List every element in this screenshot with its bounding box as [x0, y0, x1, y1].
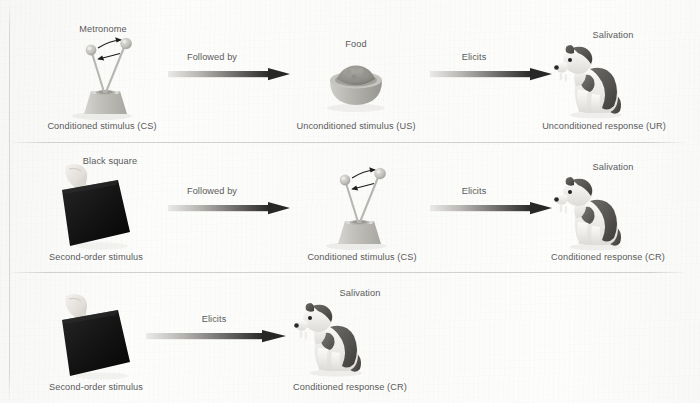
- dog-figure: [550, 36, 634, 120]
- metronome-figure: [58, 28, 148, 120]
- food-bowl-figure: [322, 56, 390, 114]
- arrow-elicits-label: Elicits: [202, 314, 227, 324]
- black-square-top-label: Black square: [83, 156, 137, 166]
- black-square-figure: [56, 160, 152, 252]
- arrow-elicits: [146, 328, 286, 344]
- dog-top-label: Salivation: [593, 30, 634, 40]
- dog-top-label: Salivation: [340, 288, 381, 298]
- dog-figure: [550, 168, 634, 252]
- row-second-order-test: Second-order stimulus Elicits: [0, 272, 700, 403]
- arrow-followed-by-label: Followed by: [187, 52, 237, 62]
- arrow-elicits-label: Elicits: [462, 186, 487, 196]
- metronome-caption: Conditioned stimulus (CS): [47, 121, 156, 131]
- metronome-caption: Conditioned stimulus (CS): [307, 252, 416, 262]
- arrow-elicits-label: Elicits: [462, 52, 487, 62]
- row-second-order-pairing: Black square Second-order stimulus Follo…: [0, 142, 700, 272]
- dog-caption: Unconditioned response (UR): [542, 121, 666, 131]
- black-square-caption: Second-order stimulus: [49, 252, 143, 262]
- food-top-label: Food: [345, 39, 366, 49]
- arrow-followed-by: [168, 200, 290, 216]
- food-caption: Unconditioned stimulus (US): [296, 121, 415, 131]
- dog-caption: Conditioned response (CR): [551, 252, 665, 262]
- dog-top-label: Salivation: [593, 162, 634, 172]
- arrow-elicits: [430, 66, 552, 82]
- conditioning-diagram: Metronome Conditioned stimulus (CS) Foll…: [0, 0, 700, 403]
- arrow-followed-by: [168, 66, 290, 82]
- metronome-top-label: Metronome: [79, 24, 126, 34]
- arrow-elicits: [430, 200, 552, 216]
- row-first-order-conditioning: Metronome Conditioned stimulus (CS) Foll…: [0, 0, 700, 142]
- black-square-figure: [56, 290, 152, 382]
- metronome-figure: [312, 158, 402, 250]
- arrow-followed-by-label: Followed by: [187, 186, 237, 196]
- dog-caption: Conditioned response (CR): [293, 382, 407, 392]
- dog-figure: [290, 294, 374, 378]
- black-square-caption: Second-order stimulus: [49, 382, 143, 392]
